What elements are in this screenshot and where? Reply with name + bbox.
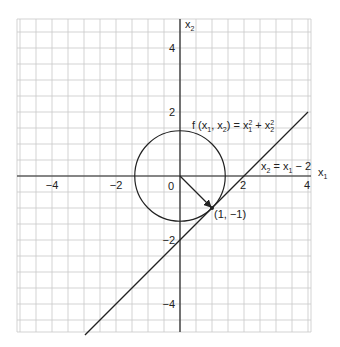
diagram-figure: −4−202442−2−4 x2 x1 f (x1, x2) = x21 + x… [0,0,340,347]
x-tick-label: 4 [304,179,310,191]
x1-axis-label: x1 [318,166,328,180]
constraint-line [85,112,308,335]
x-tick-label: −2 [110,179,123,191]
y-tick-label: −2 [162,234,175,246]
gradient-arrow [180,176,211,207]
y-tick-label: −4 [162,298,175,310]
x2-axis-label: x2 [185,18,195,32]
constraint-label: x2 = x1 − 2 [261,160,311,174]
x-tick-label: 2 [240,179,246,191]
y-tick-label: 2 [169,106,175,118]
tangent-point-label: (1, −1) [214,208,246,220]
x-tick-label: −4 [46,179,59,191]
function-label: f (x1, x2) = x21 + x22 [192,119,274,133]
x-tick-label: 0 [168,180,174,192]
y-tick-label: 4 [169,42,175,54]
